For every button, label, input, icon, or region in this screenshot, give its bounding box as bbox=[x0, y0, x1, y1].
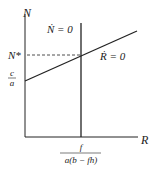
phase-diagram: N R Ṅ = 0 Ṙ = 0 N* c a f a(b − fh) bbox=[0, 0, 155, 171]
x-intercept-denominator: a(b − fh) bbox=[65, 155, 98, 165]
x-intercept-numerator: f bbox=[80, 142, 84, 152]
r-dot-nullcline-label: Ṙ = 0 bbox=[99, 50, 126, 62]
equilibrium-n-label: N* bbox=[7, 49, 21, 61]
x-axis-label: R bbox=[140, 133, 149, 147]
y-intercept-numerator: c bbox=[10, 68, 14, 78]
y-intercept-denominator: a bbox=[10, 78, 15, 88]
y-axis-label: N bbox=[22, 6, 32, 20]
n-dot-nullcline-label: Ṅ = 0 bbox=[46, 23, 73, 35]
